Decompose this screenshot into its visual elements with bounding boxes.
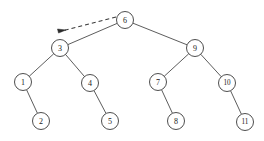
tree-node-9[interactable]: 9 xyxy=(187,40,204,57)
tree-node-2[interactable]: 2 xyxy=(33,113,50,130)
node-label-2: 2 xyxy=(39,117,43,126)
tree-edge-10-to-11 xyxy=(231,91,242,114)
tree-edge-6-to-3 xyxy=(68,24,117,45)
tree-node-8[interactable]: 8 xyxy=(168,113,185,130)
tree-node-10[interactable]: 10 xyxy=(219,75,236,92)
pointer-dashed-line xyxy=(60,17,116,32)
tree-node-3[interactable]: 3 xyxy=(52,40,69,57)
node-label-11: 11 xyxy=(242,118,249,126)
tree-edge-1-to-2 xyxy=(27,90,38,113)
tree-node-7[interactable]: 7 xyxy=(150,74,167,91)
node-label-7: 7 xyxy=(156,78,160,87)
node-label-8: 8 xyxy=(174,117,178,126)
node-label-1: 1 xyxy=(21,78,25,87)
tree-edge-9-to-10 xyxy=(201,55,221,77)
tree-node-4[interactable]: 4 xyxy=(82,75,99,92)
pointer-arrowhead-icon xyxy=(57,29,66,33)
tree-node-1[interactable]: 1 xyxy=(15,74,32,91)
tree-diagram-canvas: 6391471025811 xyxy=(0,0,264,141)
root-pointer-annotation xyxy=(57,17,116,33)
node-label-6: 6 xyxy=(123,16,127,25)
tree-edge-3-to-1 xyxy=(30,54,54,76)
tree-node-6[interactable]: 6 xyxy=(117,12,134,29)
tree-edge-7-to-8 xyxy=(162,90,173,113)
tree-edge-4-to-5 xyxy=(94,91,106,113)
binary-tree-svg: 6391471025811 xyxy=(0,0,264,141)
tree-edge-9-to-7 xyxy=(165,54,189,76)
node-label-3: 3 xyxy=(58,44,62,53)
tree-edge-3-to-4 xyxy=(66,55,84,76)
tree-nodes-group: 6391471025811 xyxy=(15,12,254,131)
tree-edges-group xyxy=(27,23,242,114)
tree-edge-6-to-9 xyxy=(133,23,186,44)
node-label-10: 10 xyxy=(223,79,231,87)
node-label-4: 4 xyxy=(88,79,92,88)
tree-node-5[interactable]: 5 xyxy=(102,113,119,130)
node-label-9: 9 xyxy=(193,44,197,53)
node-label-5: 5 xyxy=(108,117,112,126)
tree-node-11[interactable]: 11 xyxy=(237,114,254,131)
